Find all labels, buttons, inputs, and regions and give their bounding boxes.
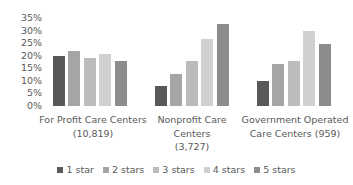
bar: [272, 64, 284, 106]
bar: [319, 44, 331, 106]
bar: [186, 61, 198, 106]
category-label-government: Government Operated Care Centers (959): [240, 113, 350, 140]
legend-item-1-star: 1 star: [57, 164, 93, 175]
bar: [201, 39, 213, 106]
bar: [257, 81, 269, 106]
legend-swatch-icon: [254, 167, 260, 173]
chart-legend: 1 star 2 stars 3 stars 4 stars 5 stars: [0, 164, 353, 175]
legend-label: 2 stars: [112, 164, 144, 175]
legend-item-4-stars: 4 stars: [204, 164, 245, 175]
legend-swatch-icon: [57, 167, 63, 173]
y-tick-label: 20%: [0, 51, 42, 61]
category-label-nonprofit: Nonprofit Care Centers (3,727): [142, 113, 242, 154]
y-tick-label: 35%: [0, 13, 42, 23]
y-tick-label: 0%: [0, 101, 42, 111]
bar: [170, 74, 182, 106]
y-tick-label: 10%: [0, 76, 42, 86]
legend-item-2-stars: 2 stars: [103, 164, 144, 175]
bar: [115, 61, 127, 106]
bar: [84, 58, 96, 106]
legend-item-3-stars: 3 stars: [153, 164, 194, 175]
bar: [68, 51, 80, 106]
y-tick-label: 30%: [0, 26, 42, 36]
legend-label: 5 stars: [263, 164, 295, 175]
y-tick-label: 5%: [0, 88, 42, 98]
bar: [217, 24, 229, 106]
legend-swatch-icon: [204, 167, 210, 173]
bar: [303, 31, 315, 106]
legend-label: 4 stars: [213, 164, 245, 175]
legend-swatch-icon: [153, 167, 159, 173]
bar: [288, 61, 300, 106]
legend-label: 3 stars: [162, 164, 194, 175]
y-tick-label: 25%: [0, 38, 42, 48]
bar: [155, 86, 167, 106]
legend-item-5-stars: 5 stars: [254, 164, 295, 175]
legend-swatch-icon: [103, 167, 109, 173]
star-rating-bar-chart: 35% 30% 25% 20% 15% 10% 5% 0% For Profit…: [0, 0, 353, 185]
legend-label: 1 star: [66, 164, 93, 175]
category-label-for-profit: For Profit Care Centers (10,819): [38, 113, 148, 140]
chart-title-cropped: [150, 0, 210, 2]
bar: [53, 56, 65, 106]
y-tick-label: 15%: [0, 63, 42, 73]
bar: [99, 54, 111, 106]
